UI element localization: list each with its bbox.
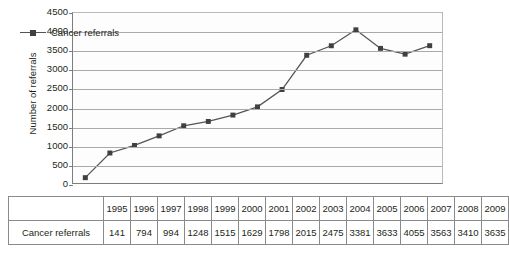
y-tick-label: 4500	[24, 7, 68, 17]
table-year-cell: 1995	[104, 197, 131, 221]
table-value-cell: 1629	[239, 221, 266, 245]
data-point-marker	[329, 43, 334, 48]
table-value-cell: 1798	[266, 221, 293, 245]
table-value-cell: 141	[104, 221, 131, 245]
table-year-cell: 1999	[212, 197, 239, 221]
y-tick-mark	[69, 13, 73, 14]
table-year-cell: 1997	[158, 197, 185, 221]
y-tick-label: 2000	[24, 103, 68, 113]
table-value-cell: 3410	[455, 221, 482, 245]
y-tick-label: 3500	[24, 45, 68, 55]
y-tick-label: 500	[24, 160, 68, 170]
y-tick-label: 2500	[24, 83, 68, 93]
gridline	[73, 109, 442, 110]
data-point-marker	[403, 52, 408, 57]
table-corner-cell	[9, 197, 104, 221]
data-table: 1995199619971998199920002001200220032004…	[8, 196, 509, 245]
table-value-cell: 794	[131, 221, 158, 245]
gridline	[73, 128, 442, 129]
gridline	[73, 147, 442, 148]
gridline	[73, 166, 442, 167]
table-year-cell: 2007	[428, 197, 455, 221]
y-tick-label: 1500	[24, 122, 68, 132]
gridline	[73, 89, 442, 90]
table-year-cell: 2003	[320, 197, 347, 221]
table-year-cell: 2001	[266, 197, 293, 221]
table-year-cell: 1996	[131, 197, 158, 221]
legend-marker-icon	[20, 28, 46, 37]
legend-label: Cancer referrals	[51, 27, 119, 38]
y-tick-label: 0	[24, 179, 68, 189]
table-value-cell: 1515	[212, 221, 239, 245]
table-year-cell: 2002	[293, 197, 320, 221]
table-row-label: Cancer referrals	[9, 221, 104, 245]
table-row-values: Cancer referrals 14179499412481515162917…	[9, 221, 509, 245]
table-value-cell: 1248	[185, 221, 212, 245]
gridline	[73, 32, 442, 33]
table-value-cell: 3635	[482, 221, 509, 245]
data-point-marker	[427, 43, 432, 48]
data-point-marker	[157, 133, 162, 138]
gridline	[73, 51, 442, 52]
data-point-marker	[107, 151, 112, 156]
table-year-cell: 1998	[185, 197, 212, 221]
data-point-marker	[304, 53, 309, 58]
legend: Cancer referrals	[20, 27, 119, 38]
line-chart: Number of referrals 45004000350030002500…	[0, 0, 469, 196]
data-point-marker	[230, 113, 235, 118]
table-value-cell: 2475	[320, 221, 347, 245]
table-value-cell: 2015	[293, 221, 320, 245]
table-value-cell: 4055	[401, 221, 428, 245]
data-point-marker	[206, 119, 211, 124]
table-year-cell: 2004	[347, 197, 374, 221]
table-year-cell: 2000	[239, 197, 266, 221]
gridline	[73, 70, 442, 71]
table-value-cell: 3563	[428, 221, 455, 245]
table-value-cell: 3633	[374, 221, 401, 245]
table-year-cell: 2009	[482, 197, 509, 221]
y-tick-label: 1000	[24, 141, 68, 151]
table-year-cell: 2005	[374, 197, 401, 221]
table-year-cell: 2006	[401, 197, 428, 221]
y-tick-label: 3000	[24, 64, 68, 74]
data-table-wrapper: 1995199619971998199920002001200220032004…	[8, 196, 460, 248]
table-year-cell: 2008	[455, 197, 482, 221]
plot-area	[72, 12, 443, 184]
data-point-marker	[378, 46, 383, 51]
table-value-cell: 3381	[347, 221, 374, 245]
data-point-marker	[83, 175, 88, 180]
table-row-years: 1995199619971998199920002001200220032004…	[9, 197, 509, 221]
series-cancer-referrals	[73, 13, 442, 183]
table-value-cell: 994	[158, 221, 185, 245]
y-tick-mark	[69, 185, 73, 186]
